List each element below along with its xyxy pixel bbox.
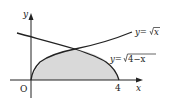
svg-text:y=: y= <box>134 27 147 37</box>
x-axis-arrow-icon <box>136 78 143 83</box>
origin-label: O <box>20 84 27 94</box>
svg-text:x: x <box>154 27 159 37</box>
x-axis-label: x <box>136 83 141 93</box>
y-axis-arrow-icon <box>29 13 34 20</box>
y-axis-label: y <box>22 9 29 19</box>
shaded-region <box>31 49 119 80</box>
graph: y x O 4 y= x y= 4−x <box>0 0 171 106</box>
label-sqrt-4-minus-x: y= 4−x <box>109 54 156 64</box>
svg-text:y=: y= <box>109 54 122 64</box>
label-sqrt-x: y= x <box>134 27 160 37</box>
svg-text:4−x: 4−x <box>128 54 146 64</box>
tick-label-4: 4 <box>115 83 121 93</box>
